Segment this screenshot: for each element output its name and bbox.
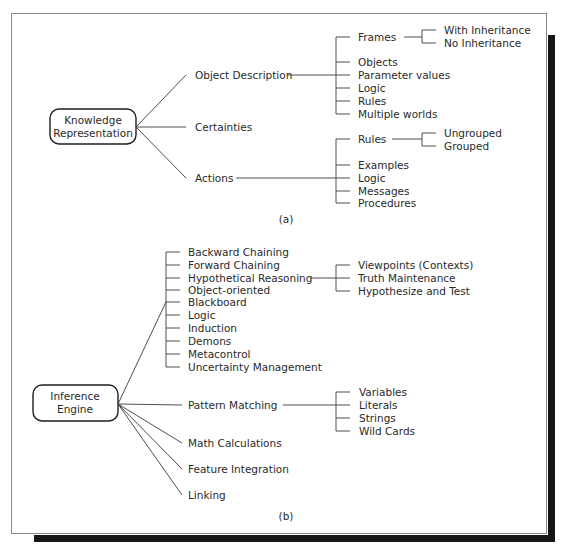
connector-kr-object-description <box>136 75 186 127</box>
forward-chaining-label: Forward Chaining <box>188 259 280 271</box>
ie-logic-label: Logic <box>188 309 216 321</box>
figure-a: Knowledge Representation Object Descript… <box>50 24 531 225</box>
diagram-canvas: Knowledge Representation Object Descript… <box>0 0 562 549</box>
object-oriented-label: Object-oriented <box>188 284 270 296</box>
grouped-label: Grouped <box>444 140 489 152</box>
parameter-values-label: Parameter values <box>358 69 450 81</box>
od-rules-label: Rules <box>358 95 386 107</box>
blackboard-label: Blackboard <box>188 296 247 308</box>
literals-label: Literals <box>359 399 397 411</box>
viewpoints-label: Viewpoints (Contexts) <box>358 259 473 271</box>
strategies-bracket <box>166 252 180 367</box>
figure-b-caption: (b) <box>279 510 294 522</box>
knowledge-representation-label-line1: Knowledge <box>64 114 122 126</box>
connector-ie-linking <box>118 404 182 495</box>
connector-kr-actions <box>136 127 186 178</box>
demons-label: Demons <box>188 335 231 347</box>
math-calculations-label: Math Calculations <box>188 437 282 449</box>
messages-label: Messages <box>358 185 410 197</box>
knowledge-representation-label-line2: Representation <box>53 127 133 139</box>
hypothetical-bracket <box>336 265 350 291</box>
objects-label: Objects <box>358 56 398 68</box>
truth-maintenance-label: Truth Maintenance <box>357 272 456 284</box>
pattern-matching-bracket <box>336 392 350 431</box>
with-inheritance-label: With Inheritance <box>444 24 531 36</box>
knowledge-representation-node: Knowledge Representation <box>50 109 136 144</box>
figure-b: Inference Engine Backward Chaining Forwa… <box>33 246 473 522</box>
object-description-label: Object Description <box>195 69 292 81</box>
inference-engine-node: Inference Engine <box>33 385 118 421</box>
inference-engine-label-line1: Inference <box>50 390 99 402</box>
actions-logic-label: Logic <box>358 172 386 184</box>
ungrouped-label: Ungrouped <box>444 127 502 139</box>
metacontrol-label: Metacontrol <box>188 348 250 360</box>
hypothetical-reasoning-label: Hypothetical Reasoning <box>188 272 312 284</box>
rules-bracket <box>422 133 436 146</box>
wild-cards-label: Wild Cards <box>359 425 415 437</box>
feature-integration-label: Feature Integration <box>188 463 289 475</box>
examples-label: Examples <box>358 159 409 171</box>
strings-label: Strings <box>359 412 396 424</box>
procedures-label: Procedures <box>358 197 416 209</box>
induction-label: Induction <box>188 322 237 334</box>
figure-a-caption: (a) <box>279 213 294 225</box>
backward-chaining-label: Backward Chaining <box>188 246 289 258</box>
hypothesize-and-test-label: Hypothesize and Test <box>358 285 470 297</box>
frames-bracket <box>422 30 436 43</box>
certainties-label: Certainties <box>195 121 252 133</box>
connector-ie-math-calculations <box>118 404 182 443</box>
multiple-worlds-label: Multiple worlds <box>358 108 437 120</box>
frames-label: Frames <box>358 31 396 43</box>
actions-label: Actions <box>195 172 233 184</box>
connector-ie-strategies <box>118 302 166 404</box>
no-inheritance-label: No Inheritance <box>444 37 521 49</box>
pattern-matching-label: Pattern Matching <box>188 399 277 411</box>
inference-engine-label-line2: Engine <box>57 403 93 415</box>
linking-label: Linking <box>188 489 226 501</box>
connector-ie-pattern-matching <box>118 404 182 405</box>
od-logic-label: Logic <box>358 82 386 94</box>
actions-rules-label: Rules <box>358 133 386 145</box>
actions-bracket <box>336 139 350 203</box>
object-description-bracket <box>336 37 350 114</box>
uncertainty-management-label: Uncertainty Management <box>188 361 322 373</box>
connector-ie-feature-integration <box>118 404 182 469</box>
variables-label: Variables <box>359 386 407 398</box>
